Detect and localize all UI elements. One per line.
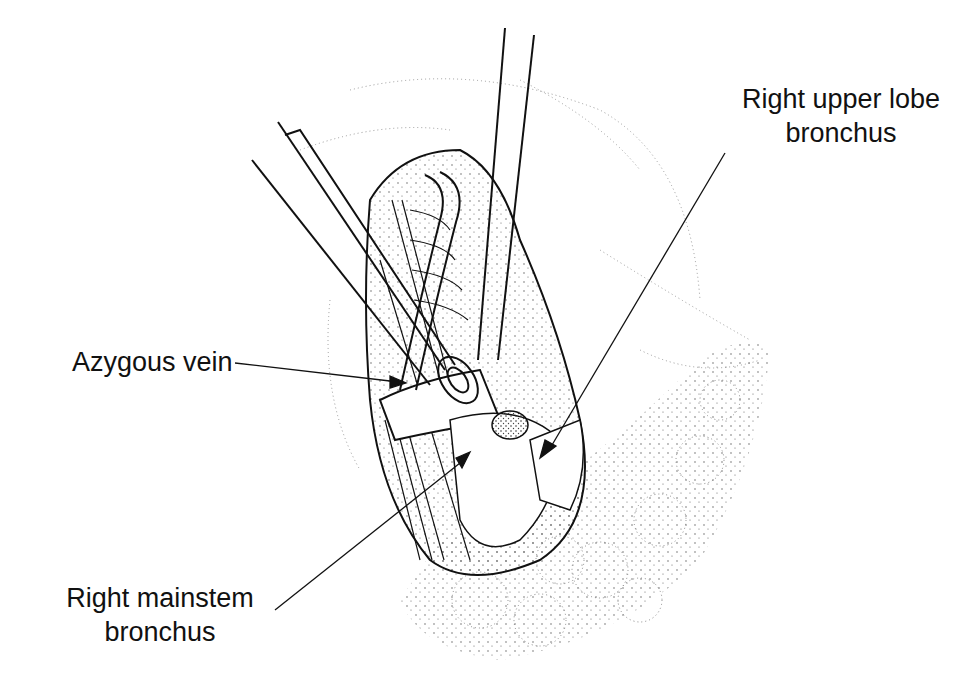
label-line: Right mainstem: [40, 581, 280, 615]
label-line: Azygous vein: [72, 345, 233, 379]
label-azygous-vein: Azygous vein: [72, 345, 233, 379]
label-right-upper-lobe-bronchus: Right upper lobe bronchus: [706, 82, 976, 150]
label-line: bronchus: [40, 615, 280, 649]
label-right-mainstem-bronchus: Right mainstem bronchus: [40, 581, 280, 649]
label-line: Right upper lobe: [706, 82, 976, 116]
label-line: bronchus: [706, 116, 976, 150]
